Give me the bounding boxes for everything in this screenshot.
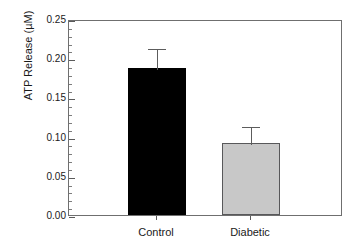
x-axis-tick-label: Diabetic (230, 227, 270, 238)
bar-control (128, 68, 186, 215)
x-axis-tick (250, 216, 251, 220)
y-axis-tick-label: 0.15 (20, 93, 66, 103)
plot-area (68, 20, 342, 216)
bar-chart-figure: ATP Release (µM) 0.250.200.150.100.050.0… (0, 0, 355, 250)
error-bar-cap-control (148, 49, 166, 50)
y-axis-tick (69, 60, 75, 61)
y-axis-minor-tick (69, 52, 72, 53)
y-axis-tick-label: 0.10 (20, 133, 66, 143)
y-axis-minor-tick (69, 84, 72, 85)
y-axis-tick-label: 0.05 (20, 172, 66, 182)
x-axis-tick (156, 216, 157, 220)
y-axis-minor-tick (69, 115, 72, 116)
error-bar-stem-diabetic (251, 127, 252, 145)
y-axis-tick (69, 178, 75, 179)
x-axis-tick-label: Control (138, 227, 173, 238)
y-axis-minor-tick (69, 45, 72, 46)
y-axis-minor-tick (69, 154, 72, 155)
y-axis-tick (69, 21, 75, 22)
y-axis-tick (69, 217, 75, 218)
y-axis-minor-tick (69, 170, 72, 171)
y-axis-tick (69, 139, 75, 140)
y-axis-minor-tick (69, 92, 72, 93)
y-axis-minor-tick (69, 131, 72, 132)
y-axis-minor-tick (69, 29, 72, 30)
y-axis-tick-label: 0.25 (20, 15, 66, 25)
y-axis-minor-tick (69, 76, 72, 77)
error-bar-cap-diabetic (242, 127, 260, 128)
y-axis-minor-tick (69, 193, 72, 194)
bar-diabetic (222, 143, 280, 215)
y-axis-minor-tick (69, 68, 72, 69)
y-axis-tick-label: 0.20 (20, 54, 66, 64)
y-axis-minor-tick (69, 162, 72, 163)
y-axis-minor-tick (69, 186, 72, 187)
y-axis-minor-tick (69, 123, 72, 124)
y-axis-minor-tick (69, 37, 72, 38)
error-bar-stem-control (157, 49, 158, 70)
y-axis-tick (69, 99, 75, 100)
y-axis-tick-label: 0.00 (20, 211, 66, 221)
y-axis-minor-tick (69, 107, 72, 108)
y-axis-minor-tick (69, 209, 72, 210)
y-axis-minor-tick (69, 201, 72, 202)
y-axis-minor-tick (69, 146, 72, 147)
